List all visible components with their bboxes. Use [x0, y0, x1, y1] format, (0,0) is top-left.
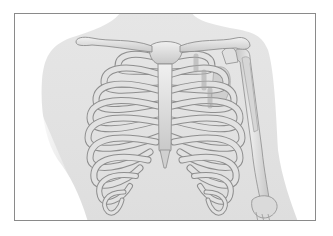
rib-cage-illustration [14, 13, 316, 221]
illustration-frame [14, 13, 316, 221]
